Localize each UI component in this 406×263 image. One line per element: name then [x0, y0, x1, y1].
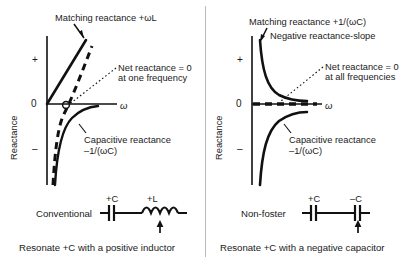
panel-non-foster: Reactance + 0 – ω Matching reactance +1/… [203, 0, 406, 263]
up-arrow-head-right [355, 220, 362, 227]
circuit-diagram-non-foster [203, 0, 406, 263]
caption-non-foster: Resonate +C with a negative capacitor [220, 242, 385, 253]
up-arrow-head-left [157, 220, 164, 227]
panel-conventional: Reactance + 0 – ω Matching reactance +ωL… [0, 0, 203, 263]
circuit-diagram-conventional [0, 0, 203, 263]
caption-conventional: Resonate +C with a positive inductor [19, 242, 175, 253]
panel-divider [205, 6, 206, 257]
inductor-coil-left [142, 208, 178, 214]
